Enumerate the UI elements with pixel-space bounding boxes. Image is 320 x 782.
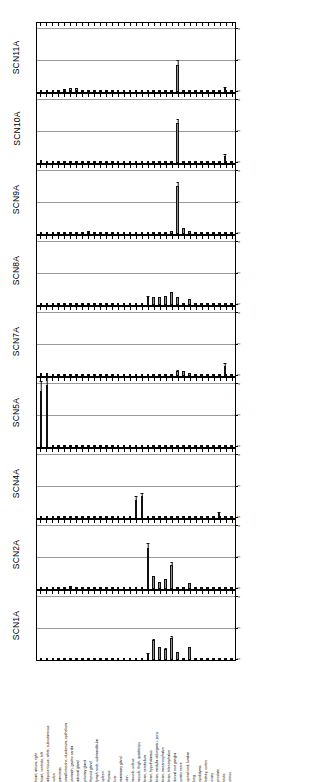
x-tick-bottom xyxy=(112,658,113,661)
tissue-label: pituitary gland xyxy=(84,760,88,782)
x-tick-top xyxy=(100,378,101,381)
x-tick-top xyxy=(112,520,113,523)
error-bar xyxy=(171,636,172,639)
x-tick-top xyxy=(226,378,227,381)
x-tick-top xyxy=(130,520,131,523)
x-tick-bottom xyxy=(190,587,191,590)
x-tick-bottom xyxy=(232,303,233,306)
x-tick-top xyxy=(94,165,95,168)
x-tick-top xyxy=(136,94,137,97)
x-tick-top xyxy=(46,236,47,239)
x-tick-top xyxy=(142,94,143,97)
x-tick-bottom xyxy=(76,232,77,235)
x-tick-bottom xyxy=(136,303,137,306)
x-tick-bottom xyxy=(124,90,125,93)
tissue-label: brain, hypothalamus xyxy=(151,750,155,782)
x-tick-bottom xyxy=(64,90,65,93)
error-bar xyxy=(177,119,178,124)
x-tick-bottom xyxy=(40,445,41,448)
x-tick-top xyxy=(172,591,173,594)
x-tick-top xyxy=(232,449,233,452)
x-tick-bottom xyxy=(136,161,137,164)
x-tick-top xyxy=(52,591,53,594)
panel-scn2a: 024 xyxy=(36,519,236,590)
x-tick-bottom xyxy=(64,445,65,448)
x-tick-bottom xyxy=(40,90,41,93)
x-tick-bottom xyxy=(112,161,113,164)
x-tick-bottom xyxy=(214,232,215,235)
x-tick-bottom xyxy=(178,374,179,377)
tissue-label: brain, telencephalon xyxy=(169,750,173,782)
x-tick-top xyxy=(178,378,179,381)
x-tick-bottom xyxy=(160,161,161,164)
plot-area xyxy=(37,591,235,660)
x-tick-top xyxy=(52,520,53,523)
x-tick-top xyxy=(208,449,209,452)
x-tick-bottom xyxy=(82,658,83,661)
x-tick-top xyxy=(166,520,167,523)
x-tick-bottom xyxy=(184,232,185,235)
x-tick-bottom xyxy=(190,516,191,519)
x-tick-bottom xyxy=(178,161,179,164)
bar-series xyxy=(37,591,235,660)
x-tick-top xyxy=(226,236,227,239)
x-tick-bottom xyxy=(202,658,203,661)
panel-scn4a: 024 xyxy=(36,448,236,519)
y-tick-label: 4 xyxy=(238,27,242,29)
error-bar xyxy=(189,299,190,300)
x-tick-top xyxy=(154,236,155,239)
bar-series xyxy=(37,520,235,589)
x-tick-bottom xyxy=(130,374,131,377)
y-tick-label: 4 xyxy=(238,311,242,313)
error-bar xyxy=(165,648,166,650)
error-bar-cap xyxy=(218,512,220,513)
bar xyxy=(176,186,179,234)
x-tick-top xyxy=(64,236,65,239)
x-tick-bottom xyxy=(220,374,221,377)
error-bar-cap xyxy=(188,583,190,584)
y-axis: 024 xyxy=(235,449,269,518)
x-tick-top xyxy=(190,520,191,523)
x-tick-top xyxy=(100,23,101,26)
y-tick-label: 2 xyxy=(238,59,242,61)
x-tick-bottom xyxy=(226,445,227,448)
x-tick-top xyxy=(142,449,143,452)
x-tick-bottom xyxy=(76,90,77,93)
panel-scn5a: 024 xyxy=(36,377,236,448)
x-tick-bottom xyxy=(118,90,119,93)
x-tick-top xyxy=(100,520,101,523)
x-axis-tissue-labels: heart, atrium, rightheart, ventricle, le… xyxy=(36,664,236,782)
x-tick-top xyxy=(88,94,89,97)
x-tick-top xyxy=(58,23,59,26)
y-tick-label: 2 xyxy=(238,485,242,487)
x-tick-bottom xyxy=(88,445,89,448)
x-tick-bottom xyxy=(142,232,143,235)
x-tick-top xyxy=(70,165,71,168)
x-tick-top xyxy=(196,449,197,452)
error-bar-cap xyxy=(182,228,184,229)
error-bar-cap xyxy=(182,371,184,372)
error-bar-cap xyxy=(159,297,161,298)
error-bar xyxy=(171,562,172,565)
x-tick-bottom xyxy=(190,303,191,306)
x-tick-top xyxy=(40,307,41,310)
x-tick-top xyxy=(202,378,203,381)
error-bar-cap xyxy=(170,562,172,563)
x-tick-bottom xyxy=(142,516,143,519)
x-tick-top xyxy=(214,94,215,97)
x-tick-bottom xyxy=(214,587,215,590)
x-tick-top xyxy=(100,307,101,310)
x-tick-bottom xyxy=(94,232,95,235)
x-tick-top xyxy=(130,94,131,97)
error-bar xyxy=(225,363,226,367)
x-tick-top xyxy=(202,236,203,239)
tissue-label: adipose tissue, white, subcutaneous xyxy=(47,726,51,782)
x-tick-top xyxy=(46,449,47,452)
x-tick-top xyxy=(208,94,209,97)
x-tick-bottom xyxy=(124,374,125,377)
x-tick-bottom xyxy=(94,374,95,377)
x-tick-bottom xyxy=(154,232,155,235)
x-tick-top xyxy=(226,449,227,452)
x-tick-bottom xyxy=(76,587,77,590)
x-tick-bottom xyxy=(82,90,83,93)
